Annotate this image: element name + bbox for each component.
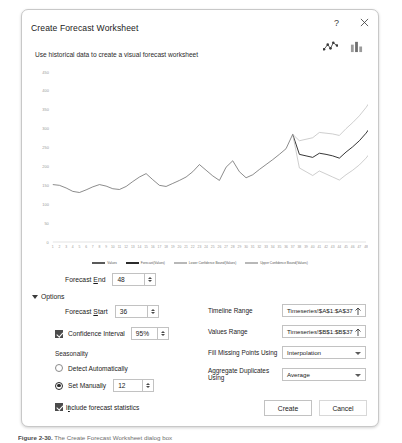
- chart-x-tick-label: 15: [144, 245, 148, 249]
- forecast-end-value: 48: [117, 276, 124, 283]
- stepper-down-icon[interactable]: [146, 386, 150, 388]
- values-range-value: Timeseries!$B$1:$B$37: [283, 328, 353, 335]
- options-section-header[interactable]: Options: [33, 293, 378, 300]
- values-range-input[interactable]: Timeseries!$B$1:$B$37: [282, 325, 366, 338]
- chart-x-tick-label: 29: [238, 245, 242, 249]
- chart-x-tick-label: 30: [244, 245, 248, 249]
- aggregate-duplicates-dropdown[interactable]: Average: [282, 368, 366, 381]
- help-label: ?: [334, 18, 339, 28]
- fill-missing-field: Fill Missing Points Using Interpolation: [208, 346, 366, 359]
- chart-x-tick-label: 18: [164, 245, 168, 249]
- chart-x-tick-label: 4: [72, 245, 74, 249]
- forecast-end-stepper[interactable]: [145, 273, 156, 286]
- chart-x-tick-label: 39: [304, 245, 308, 249]
- chevron-down-icon[interactable]: [355, 374, 361, 377]
- chart-line-forecast-values: [293, 124, 368, 158]
- values-range-field: Values Range Timeseries!$B$1:$B$37: [208, 325, 366, 338]
- chart-y-tick-label: 250: [42, 145, 49, 150]
- chart-x-tick-label: 22: [191, 245, 195, 249]
- forecast-start-label-text: S: [93, 308, 98, 315]
- seasonality-detect-label: Detect Automatically: [68, 365, 128, 372]
- chart-x-tick-label: 43: [331, 245, 335, 249]
- chart-y-axis-ticks: 050100150200250300350400450: [42, 70, 49, 245]
- chevron-down-icon[interactable]: [32, 295, 38, 299]
- confidence-interval-checkbox[interactable]: [55, 330, 63, 338]
- chart-y-tick-label: 400: [42, 88, 49, 93]
- chart-x-tick-label: 35: [278, 245, 282, 249]
- create-button[interactable]: Create: [264, 400, 312, 416]
- seasonality-manual-row[interactable]: Set Manually 12: [55, 379, 208, 392]
- confidence-interval-row: Confidence Interval 95%: [55, 327, 208, 340]
- dialog-subtitle-bar: Use historical data to create a visual f…: [22, 37, 378, 63]
- timeline-range-field: Timeline Range Timeseries!$A$1:$A$37: [208, 304, 366, 317]
- line-chart-icon[interactable]: [322, 38, 339, 55]
- include-statistics-checkbox[interactable]: [55, 403, 63, 411]
- chart-x-tick-label: 40: [311, 245, 315, 249]
- stepper-down-icon[interactable]: [161, 334, 165, 336]
- stepper-up-icon[interactable]: [161, 331, 165, 333]
- forecast-end-label-text: E: [93, 276, 98, 283]
- chart-x-tick-label: 24: [204, 245, 208, 249]
- stepper-down-icon[interactable]: [148, 280, 152, 282]
- column-chart-icon[interactable]: [348, 38, 365, 55]
- stepper-up-icon[interactable]: [146, 383, 150, 385]
- stepper-up-icon[interactable]: [151, 309, 155, 311]
- stepper-down-icon[interactable]: [151, 312, 155, 314]
- chart-y-tick-label: 350: [42, 107, 49, 112]
- chart-x-tick-label: 33: [264, 245, 268, 249]
- fill-missing-dropdown[interactable]: Interpolation: [282, 346, 366, 359]
- seasonality-manual-radio[interactable]: [55, 382, 63, 390]
- seasonality-detect-row[interactable]: Detect Automatically: [55, 364, 208, 372]
- cancel-button[interactable]: Cancel: [319, 400, 367, 416]
- chart-x-tick-label: 26: [218, 245, 222, 249]
- chart-x-tick-label: 28: [231, 245, 235, 249]
- chart-x-axis-ticks: 1234567891011121314151617181920212223242…: [52, 245, 368, 249]
- chart-x-tick-label: 44: [337, 245, 341, 249]
- include-statistics-label: IInclude forecast statistics: [68, 404, 139, 411]
- forecast-start-stepper[interactable]: [148, 305, 159, 318]
- timeline-range-input[interactable]: Timeseries!$A$1:$A$37: [282, 304, 366, 317]
- chart-y-tick-label: 0: [47, 240, 50, 245]
- seasonality-manual-input[interactable]: 12: [113, 379, 143, 392]
- range-picker-icon[interactable]: [353, 307, 362, 316]
- forecast-start-label: Forecast Start: [65, 308, 108, 315]
- forecast-start-input[interactable]: 36: [115, 305, 148, 318]
- chart-x-tick-label: 20: [178, 245, 182, 249]
- fill-missing-label: Fill Missing Points Using: [208, 349, 282, 356]
- create-forecast-worksheet-dialog: Create Forecast Worksheet ? Use historic…: [21, 9, 379, 427]
- chart-x-tick-label: 8: [99, 245, 101, 249]
- chart-x-tick-label: 11: [118, 245, 122, 249]
- forecast-start-row: Forecast Start 36: [65, 305, 208, 318]
- figure-label: Figure 2-30.: [18, 434, 53, 441]
- aggregate-duplicates-label: Aggregate Duplicates Using: [208, 367, 282, 381]
- dialog-subtitle: Use historical data to create a visual f…: [35, 51, 198, 58]
- confidence-interval-input[interactable]: 95%: [131, 327, 158, 340]
- legend-item: Upper Confidence Bound(Values): [245, 261, 307, 265]
- seasonality-detect-radio[interactable]: [55, 364, 63, 372]
- confidence-interval-stepper[interactable]: [158, 327, 169, 340]
- chart-x-tick-label: 21: [184, 245, 188, 249]
- legend-swatch: [245, 262, 258, 264]
- legend-label: Values: [107, 261, 117, 265]
- chart-x-tick-label: 41: [317, 245, 321, 249]
- close-icon[interactable]: [357, 15, 372, 30]
- legend-item: Forecast(Values): [126, 261, 165, 265]
- forecast-start-value: 36: [120, 308, 127, 315]
- dialog-title: Create Forecast Worksheet: [31, 23, 138, 33]
- seasonality-label: Seasonality: [55, 350, 208, 357]
- stepper-up-icon[interactable]: [148, 277, 152, 279]
- dialog-footer: Create Cancel: [264, 400, 367, 416]
- values-range-label: Values Range: [208, 328, 282, 335]
- chart-line-lower-confidence-bound-values: [293, 134, 368, 180]
- forecast-end-input[interactable]: 48: [112, 273, 145, 286]
- seasonality-manual-stepper[interactable]: [143, 379, 154, 392]
- chart-x-tick-label: 2: [59, 245, 61, 249]
- chart-y-tick-label: 300: [42, 126, 49, 131]
- chart-type-toggle-group: [322, 38, 365, 55]
- help-icon[interactable]: ?: [329, 15, 344, 30]
- seasonality-manual-label: Set Manually: [68, 382, 106, 389]
- range-picker-icon[interactable]: [353, 328, 362, 337]
- chevron-down-icon[interactable]: [355, 352, 361, 355]
- options-left-column: Forecast Start 36 Confidence Interval 95…: [22, 304, 208, 411]
- chart-line-upper-confidence-bound-values: [293, 98, 368, 141]
